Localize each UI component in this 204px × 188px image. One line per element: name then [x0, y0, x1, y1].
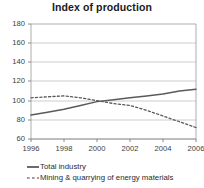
series-line-mining-quarrying [31, 96, 196, 128]
legend-item-total-industry: Total industry [27, 161, 204, 172]
x-tick-label-2004: 2004 [148, 145, 178, 153]
y-tick-label-80: 80 [1, 116, 25, 124]
x-tick-label-1996: 1996 [16, 145, 46, 153]
y-axis-ticks [28, 24, 31, 139]
gridlines [31, 24, 196, 120]
index-of-production-chart: Index of production [0, 0, 204, 188]
y-tick-label-160: 160 [1, 39, 25, 47]
plot-area [0, 0, 204, 188]
y-tick-label-180: 180 [1, 20, 25, 28]
y-tick-label-120: 120 [1, 77, 25, 85]
legend-label-total-industry: Total industry [40, 162, 86, 171]
x-tick-label-2000: 2000 [82, 145, 112, 153]
legend-item-mining-quarrying: Mining & quarrying of energy materials [27, 172, 204, 183]
x-tick-label-2002: 2002 [115, 145, 145, 153]
legend-label-mining-quarrying: Mining & quarrying of energy materials [40, 173, 173, 182]
dashed-line-icon [27, 173, 40, 182]
series-line-total-industry [31, 89, 196, 115]
y-tick-label-140: 140 [1, 58, 25, 66]
x-tick-label-1998: 1998 [49, 145, 79, 153]
y-tick-label-60: 60 [1, 135, 25, 143]
chart-legend: Total industry Mining & quarrying of ene… [27, 161, 204, 183]
solid-line-icon [27, 162, 40, 171]
y-tick-label-100: 100 [1, 97, 25, 105]
x-tick-label-2006: 2006 [181, 145, 204, 153]
plot-frame [31, 24, 196, 139]
